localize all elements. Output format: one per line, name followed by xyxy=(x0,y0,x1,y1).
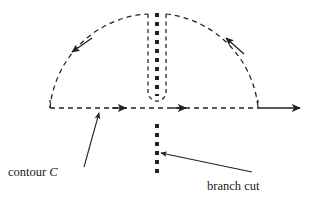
branch-cut-leader-line xyxy=(161,153,252,172)
branch-cut-label: branch cut xyxy=(207,180,259,193)
arc-arrow-left xyxy=(72,38,92,52)
outer-arc-left xyxy=(50,14,148,108)
outer-arc-right xyxy=(166,14,258,108)
contour-diagram: contour C branch cut xyxy=(0,0,318,202)
arc-arrow-right xyxy=(226,38,244,54)
contour-label-text: contour xyxy=(8,165,49,179)
contour-label-symbol: C xyxy=(49,165,57,179)
contour-label: contour C xyxy=(8,166,58,179)
contour-leader-line xyxy=(84,113,99,167)
